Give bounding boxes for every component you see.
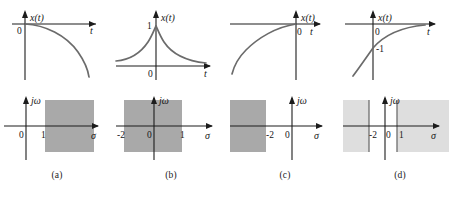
roc-right-bound-label: -2 xyxy=(266,130,274,140)
signal-x-axis-label: t xyxy=(204,68,207,79)
panel-d: x(t) t 0 -1 jω σ -2 0 1 (d) xyxy=(343,0,457,197)
splane-origin-label: 0 xyxy=(285,130,290,140)
panel-a-splane-plot: jω σ 0 1 xyxy=(0,88,114,170)
pole-label-minus-two: -2 xyxy=(369,130,377,140)
amplitude-axis-arrow xyxy=(293,10,299,18)
signal-x-axis-label: t xyxy=(427,26,430,37)
roc-left-bound-label: 1 xyxy=(41,130,46,140)
signal-curve-left xyxy=(116,26,156,61)
signal-minus-one-label: -1 xyxy=(376,44,384,54)
signal-y-axis-label: x(t) xyxy=(300,12,316,24)
signal-y-axis-label: x(t) xyxy=(29,12,45,24)
signal-curve xyxy=(353,25,425,76)
amplitude-axis-arrow xyxy=(22,10,28,18)
jomega-axis-arrow xyxy=(23,96,29,104)
sigma-axis-label: σ xyxy=(205,130,211,141)
panel-d-splane-plot: jω σ -2 0 1 xyxy=(343,88,457,170)
signal-curve xyxy=(25,24,89,77)
sigma-axis-label: σ xyxy=(91,130,97,141)
splane-origin-label: 0 xyxy=(147,130,152,140)
panel-a: x(t) t 0 jω σ 0 1 (a) xyxy=(0,0,114,197)
roc-left-bound-label: -2 xyxy=(117,130,125,140)
signal-y-axis-label: x(t) xyxy=(160,12,176,24)
roc-figure: x(t) t 0 jω σ 0 1 (a) xyxy=(0,0,457,197)
signal-x-axis-label: t xyxy=(310,26,313,37)
panel-a-signal-plot: x(t) t 0 xyxy=(0,2,114,86)
jomega-axis-arrow xyxy=(289,96,295,104)
panel-c-splane-plot: jω σ -2 0 xyxy=(228,88,342,170)
splane-origin-label: 0 xyxy=(19,130,24,140)
signal-origin-label: 0 xyxy=(375,27,380,37)
jomega-axis-label: jω xyxy=(29,95,41,106)
panel-b-caption: (b) xyxy=(114,170,228,180)
panel-c-caption: (c) xyxy=(228,170,342,180)
signal-peak-label: 1 xyxy=(147,21,152,31)
amplitude-axis-arrow xyxy=(153,10,159,18)
sigma-axis-label: σ xyxy=(314,130,320,141)
panel-c: x(t) t 0 jω σ -2 0 (c) xyxy=(228,0,342,197)
signal-origin-label: 0 xyxy=(17,26,22,36)
pole-label-one: 1 xyxy=(399,130,404,140)
signal-curve xyxy=(232,24,296,74)
signal-x-axis-label: t xyxy=(90,25,93,36)
signal-curve-right xyxy=(156,26,206,63)
sigma-axis-arrow xyxy=(92,123,99,129)
panel-c-signal-plot: x(t) t 0 xyxy=(228,2,342,86)
panel-b-splane-plot: jω σ -2 0 1 xyxy=(114,88,228,170)
jomega-axis-arrow xyxy=(382,96,388,104)
signal-origin-label: 0 xyxy=(297,27,302,37)
splane-origin-label: 0 xyxy=(386,130,391,140)
panel-d-caption: (d) xyxy=(343,170,457,180)
time-axis-arrow xyxy=(314,21,321,27)
sigma-axis-arrow xyxy=(206,123,213,129)
roc-right-bound-label: 1 xyxy=(180,130,185,140)
amplitude-axis-arrow xyxy=(370,10,376,18)
panel-a-caption: (a) xyxy=(0,170,114,180)
panel-d-signal-plot: x(t) t 0 -1 xyxy=(343,2,457,86)
panel-b-signal-plot: x(t) t 1 0 xyxy=(114,2,228,86)
signal-y-axis-label: x(t) xyxy=(377,12,393,24)
sigma-axis-arrow xyxy=(316,123,323,129)
jomega-axis-label: jω xyxy=(295,95,307,106)
jomega-axis-label: jω xyxy=(388,95,400,106)
jomega-axis-label: jω xyxy=(157,95,169,106)
time-axis-arrow xyxy=(429,21,436,27)
signal-origin-label: 0 xyxy=(148,69,153,79)
panel-b: x(t) t 1 0 jω σ -2 0 1 (b) xyxy=(114,0,228,197)
